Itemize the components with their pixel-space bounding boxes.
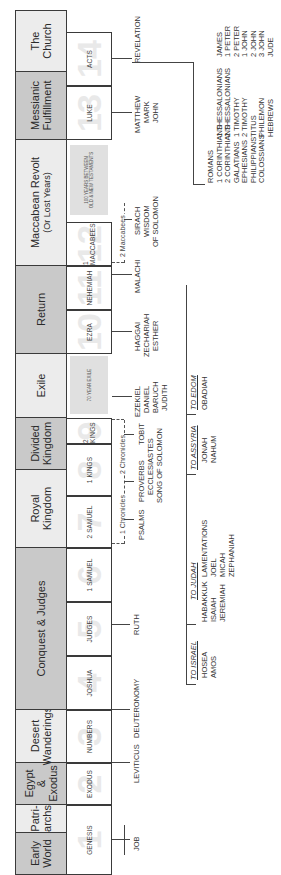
connector bbox=[124, 219, 132, 220]
book-job: JOB bbox=[133, 836, 142, 851]
book-1-samuel: 6 1 SAMUEL bbox=[67, 548, 112, 602]
period-label: Exile bbox=[35, 374, 47, 398]
connector bbox=[124, 825, 125, 855]
period-desert-wanderings: DesertWanderings bbox=[15, 710, 67, 763]
connector bbox=[186, 474, 196, 475]
book-genesis: 1 GENESIS bbox=[67, 805, 112, 875]
book-nehemiah: 11 NEHEMIAH bbox=[67, 266, 112, 310]
book-zephaniah: ZEPHANIAH bbox=[228, 534, 237, 577]
period-return: Return bbox=[15, 266, 67, 354]
period-maccabean-revolt: Maccabean Revolt(Or Lost Years) bbox=[15, 140, 67, 266]
period-label: Fulfillment bbox=[41, 80, 53, 130]
connector bbox=[112, 839, 124, 840]
book-label: NUMBERS bbox=[86, 720, 93, 753]
connector bbox=[112, 58, 132, 59]
book-malachi: MALACHI bbox=[134, 260, 143, 293]
letters-column-2: - 1 THESSALONIANS 2 THESSALONIANS 1 TIMO… bbox=[207, 68, 275, 137]
book-esther: ESTHER bbox=[152, 321, 161, 351]
book-song-of-solomon: SONG OF SOLOMON bbox=[156, 428, 165, 503]
to-edom-heading: TO EDOM bbox=[190, 375, 199, 410]
book-obadiah: OBADIAH bbox=[201, 376, 210, 410]
period-label: The Church bbox=[29, 13, 53, 69]
connector bbox=[132, 62, 194, 63]
letters-column-3: - JAMES 1 PETER 2 PETER 1 JOHN 2 JOHN 3 … bbox=[207, 26, 275, 57]
period-label: Egypt & bbox=[23, 769, 47, 797]
connector bbox=[124, 519, 134, 520]
period-label: Return bbox=[35, 293, 47, 326]
connector bbox=[112, 624, 130, 625]
period-label: World bbox=[41, 839, 53, 868]
book-label: 2 KINGS bbox=[82, 419, 96, 443]
prophets-bracket bbox=[186, 285, 187, 685]
period-conquest-judges: Conquest & Judges bbox=[15, 548, 67, 710]
book-label: 2 SAMUEL bbox=[86, 506, 93, 539]
band-label: 70 YEAR EXILE bbox=[87, 369, 92, 401]
book-revelation: REVELATION bbox=[134, 16, 143, 63]
connector bbox=[186, 414, 196, 415]
connector-dashed bbox=[112, 262, 124, 263]
book-judges: 5 JUDGES bbox=[67, 602, 112, 656]
period-egypt-exodus: Egypt &Exodus bbox=[15, 763, 67, 805]
period-label: Maccabean Revolt bbox=[29, 157, 41, 248]
period-label: Wanderings bbox=[41, 707, 53, 765]
book-label: JOSHUA bbox=[86, 670, 93, 697]
period-label: Messianic bbox=[29, 81, 41, 130]
period-exile: Exile bbox=[15, 354, 67, 418]
connector bbox=[112, 274, 132, 275]
book-1-chronicles: 1 Chronicles bbox=[119, 494, 126, 535]
connector bbox=[112, 112, 132, 113]
connector bbox=[124, 839, 130, 840]
book-label: EXODUS bbox=[86, 770, 93, 798]
book-2-kings: 9 2 KINGS bbox=[67, 418, 112, 444]
period-label: Early bbox=[29, 841, 41, 866]
to-israel-heading: TO ISRAEL bbox=[190, 641, 199, 680]
book-amos: AMOS bbox=[210, 656, 219, 678]
connector bbox=[112, 396, 132, 397]
book-acts: 14 ACTS bbox=[67, 32, 112, 86]
book-jude: JUDE bbox=[267, 26, 276, 57]
connector-dashed bbox=[112, 419, 124, 420]
book-numbers: 3 NUMBERS bbox=[67, 710, 112, 763]
period-label: Patri- bbox=[29, 805, 41, 831]
to-assyria-heading: TO ASSYRIA bbox=[190, 425, 199, 470]
period-label: Royal bbox=[29, 494, 41, 522]
period-patriarchs: Patri-archs bbox=[15, 805, 67, 833]
connector-dashed bbox=[112, 543, 124, 544]
book-leviticus: LEVITICUS bbox=[133, 744, 142, 783]
connector bbox=[124, 434, 134, 435]
book-ruth: RUTH bbox=[133, 614, 142, 635]
book-deuteronomy: DEUTERONOMY bbox=[133, 679, 142, 738]
period-label: archs bbox=[41, 805, 53, 832]
period-the-church: The Church bbox=[15, 10, 67, 72]
book-label: GENESIS bbox=[86, 825, 93, 855]
book-of-solomon: OF SOLOMON bbox=[152, 196, 161, 247]
book-label: 1 KINGS bbox=[86, 457, 93, 483]
period-label: Divided bbox=[29, 425, 41, 462]
book-judith: JUDITH bbox=[161, 384, 170, 411]
book-ezra: 10 EZRA bbox=[67, 310, 112, 354]
connector bbox=[193, 62, 194, 185]
book-john: JOHN bbox=[152, 103, 161, 123]
period-divided-kingdom: DividedKingdom bbox=[15, 418, 67, 470]
period-royal-kingdom: RoyalKingdom bbox=[15, 470, 67, 548]
book-2-chronicles: 2 Chronicles bbox=[119, 434, 126, 475]
book-hebrews: HEBREWS bbox=[267, 68, 276, 137]
period-label: Exodus bbox=[47, 765, 59, 802]
book-label: 1 MACCABEES bbox=[82, 223, 96, 265]
book-psalms: PSALMS bbox=[138, 510, 147, 540]
period-early-world: EarlyWorld bbox=[15, 833, 67, 875]
book-joshua: 4 JOSHUA bbox=[67, 656, 112, 710]
connector bbox=[124, 481, 134, 482]
book-2-maccabees: 2 Maccabees bbox=[119, 214, 126, 258]
band-label: OLD & NEW TESTAMENTS bbox=[89, 152, 94, 208]
connector bbox=[112, 331, 132, 332]
book-label: 1 SAMUEL bbox=[86, 559, 93, 592]
connector bbox=[112, 709, 130, 710]
period-messianic-fulfillment: MessianicFulfillment bbox=[15, 72, 67, 140]
connector bbox=[186, 624, 196, 625]
book-1-kings: 8 1 KINGS bbox=[67, 444, 112, 496]
book-label: EZRA bbox=[86, 323, 93, 341]
book-nahum: NAHUM bbox=[210, 436, 219, 464]
period-sublabel: (Or Lost Years) bbox=[41, 157, 53, 248]
connector bbox=[193, 184, 205, 185]
